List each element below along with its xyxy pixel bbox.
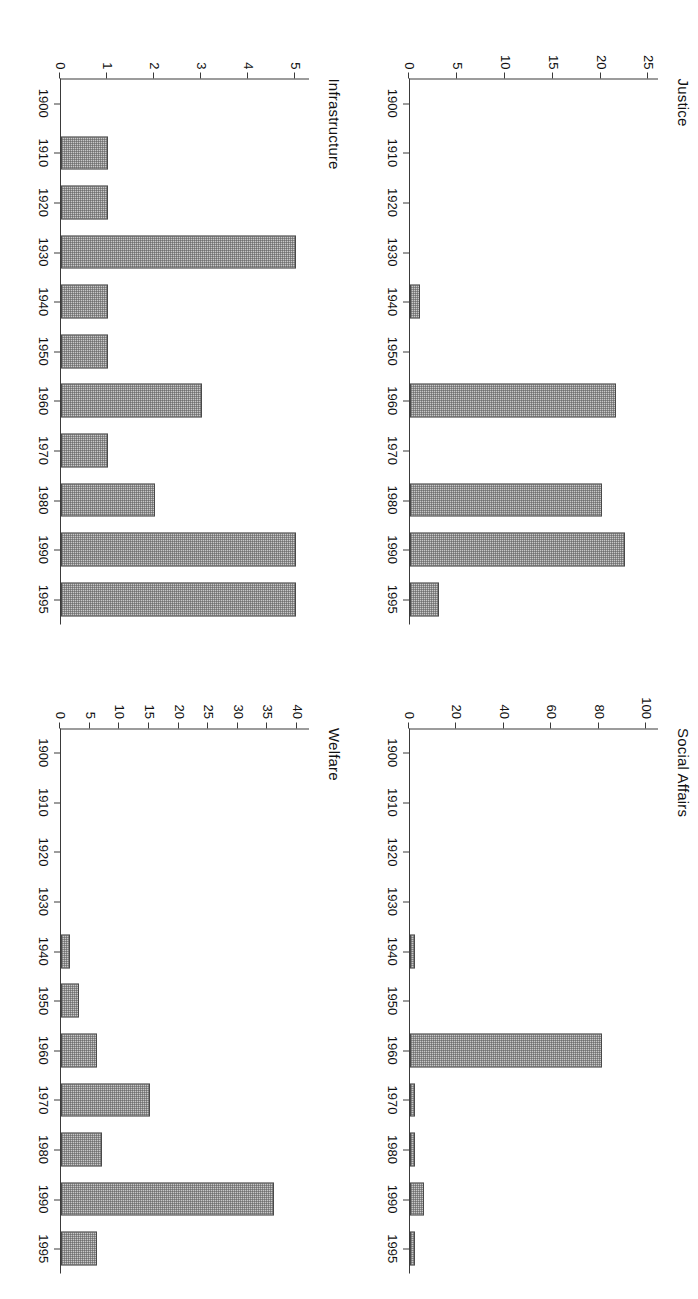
y-tick-mark bbox=[59, 722, 60, 728]
y-tick-label: 5 bbox=[82, 711, 97, 718]
x-tick-label: 1995 bbox=[385, 584, 400, 613]
y-tick-mark bbox=[267, 722, 268, 728]
y-axis-line bbox=[409, 78, 658, 79]
bar bbox=[61, 284, 108, 318]
x-tick-label: 1960 bbox=[385, 386, 400, 415]
y-tick-label: 30 bbox=[230, 704, 245, 718]
bar bbox=[410, 1033, 602, 1067]
x-tick-label: 1980 bbox=[36, 485, 51, 514]
x-tick-mark bbox=[403, 901, 409, 902]
x-tick-label: 1960 bbox=[36, 1035, 51, 1064]
y-tick-mark bbox=[153, 72, 154, 78]
bar bbox=[410, 1182, 424, 1216]
chart-panel-justice: Justice 05101520251900191019201930194019… bbox=[349, 0, 698, 650]
x-tick-mark bbox=[54, 802, 60, 803]
x-tick-mark bbox=[54, 500, 60, 501]
y-tick-mark bbox=[200, 72, 201, 78]
chart-grid: Justice 05101520251900191019201930194019… bbox=[0, 0, 698, 1299]
bar bbox=[61, 532, 296, 566]
plot-area: 0204060801001900191019201930194019501960… bbox=[409, 728, 658, 1274]
x-tick-mark bbox=[403, 851, 409, 852]
y-tick-label: 25 bbox=[641, 55, 656, 69]
x-tick-label: 1970 bbox=[36, 1085, 51, 1114]
y-tick-mark bbox=[504, 72, 505, 78]
x-tick-label: 1900 bbox=[36, 738, 51, 767]
y-tick-mark bbox=[118, 722, 119, 728]
y-tick-label: 40 bbox=[496, 704, 511, 718]
y-tick-mark bbox=[207, 722, 208, 728]
bar bbox=[61, 582, 296, 616]
bar bbox=[410, 1132, 415, 1166]
y-tick-mark bbox=[503, 722, 504, 728]
x-tick-label: 1960 bbox=[36, 386, 51, 415]
plot-area: 0510152025303540190019101920193019401950… bbox=[60, 728, 309, 1274]
bar bbox=[61, 1083, 150, 1117]
y-tick-mark bbox=[237, 722, 238, 728]
x-tick-mark bbox=[54, 752, 60, 753]
x-tick-mark bbox=[54, 450, 60, 451]
y-tick-mark bbox=[550, 722, 551, 728]
x-tick-mark bbox=[54, 901, 60, 902]
x-tick-mark bbox=[54, 599, 60, 600]
x-tick-label: 1900 bbox=[36, 88, 51, 117]
x-tick-label: 1910 bbox=[385, 787, 400, 816]
figure-page: Justice 05101520251900191019201930194019… bbox=[0, 0, 698, 1299]
x-tick-label: 1990 bbox=[385, 535, 400, 564]
y-tick-label: 10 bbox=[112, 704, 127, 718]
x-tick-mark bbox=[403, 802, 409, 803]
y-tick-label: 20 bbox=[449, 704, 464, 718]
bar bbox=[61, 1033, 97, 1067]
x-tick-label: 1930 bbox=[36, 237, 51, 266]
bar bbox=[410, 383, 616, 417]
bar bbox=[61, 334, 108, 368]
x-tick-mark bbox=[54, 1149, 60, 1150]
x-tick-mark bbox=[54, 1099, 60, 1100]
y-tick-mark bbox=[455, 722, 456, 728]
chart-title: Social Affairs bbox=[675, 728, 692, 817]
x-tick-mark bbox=[403, 152, 409, 153]
y-tick-mark bbox=[59, 72, 60, 78]
y-tick-mark bbox=[148, 722, 149, 728]
y-tick-mark bbox=[106, 72, 107, 78]
y-tick-label: 60 bbox=[544, 704, 559, 718]
y-tick-label: 3 bbox=[193, 62, 208, 69]
x-tick-label: 1950 bbox=[36, 986, 51, 1015]
y-tick-label: 0 bbox=[402, 711, 417, 718]
chart-title: Infrastructure bbox=[326, 78, 343, 169]
x-tick-label: 1950 bbox=[385, 336, 400, 365]
x-tick-label: 1900 bbox=[385, 738, 400, 767]
y-tick-mark bbox=[408, 72, 409, 78]
y-tick-mark bbox=[247, 72, 248, 78]
y-tick-label: 15 bbox=[545, 55, 560, 69]
bar bbox=[61, 1231, 97, 1265]
x-tick-mark bbox=[54, 202, 60, 203]
y-tick-mark bbox=[89, 722, 90, 728]
x-tick-label: 1995 bbox=[36, 1234, 51, 1263]
plot-area: 0123451900191019201930194019501960197019… bbox=[60, 78, 309, 624]
y-tick-label: 0 bbox=[53, 62, 68, 69]
bar bbox=[410, 483, 602, 517]
y-tick-label: 0 bbox=[53, 711, 68, 718]
x-tick-label: 1990 bbox=[36, 535, 51, 564]
bar bbox=[61, 383, 202, 417]
y-tick-label: 0 bbox=[402, 62, 417, 69]
rotated-figure-sheet: Justice 05101520251900191019201930194019… bbox=[0, 0, 698, 1299]
y-tick-mark bbox=[178, 722, 179, 728]
x-tick-label: 1980 bbox=[36, 1135, 51, 1164]
y-tick-label: 80 bbox=[591, 704, 606, 718]
x-tick-mark bbox=[403, 301, 409, 302]
y-tick-label: 100 bbox=[639, 697, 654, 719]
x-tick-mark bbox=[403, 599, 409, 600]
x-tick-label: 1995 bbox=[385, 1234, 400, 1263]
x-tick-label: 1940 bbox=[36, 287, 51, 316]
bar bbox=[61, 934, 70, 968]
x-tick-mark bbox=[54, 1050, 60, 1051]
y-axis-line bbox=[60, 78, 309, 79]
x-tick-mark bbox=[403, 549, 409, 550]
x-tick-mark bbox=[403, 450, 409, 451]
x-tick-mark bbox=[403, 951, 409, 952]
y-tick-mark bbox=[598, 722, 599, 728]
x-tick-mark bbox=[403, 351, 409, 352]
x-tick-label: 1910 bbox=[385, 138, 400, 167]
y-tick-label: 10 bbox=[497, 55, 512, 69]
